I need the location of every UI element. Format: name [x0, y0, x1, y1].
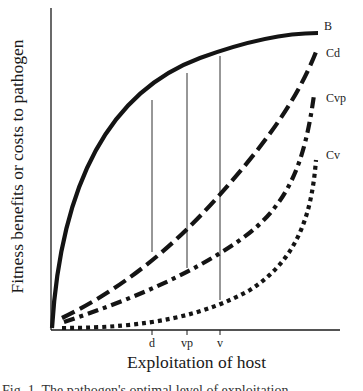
curve-b — [52, 33, 318, 328]
x-ticks — [152, 330, 220, 335]
axes — [51, 8, 340, 330]
tick-label-vp: vp — [181, 336, 193, 351]
curve-cd — [62, 52, 316, 318]
curve-label-cvp: Cvp — [326, 91, 346, 106]
drop-lines — [152, 56, 220, 300]
tick-label-v: v — [217, 336, 223, 351]
x-axis-label: Exploitation of host — [0, 352, 363, 373]
cut-off-caption: Fig. 1. The pathogen's optimal level of … — [2, 383, 289, 391]
curve-label-b: B — [324, 19, 332, 34]
curves — [52, 33, 318, 328]
curve-label-cv: Cv — [326, 148, 340, 163]
curve-label-cd: Cd — [326, 46, 340, 61]
figure-canvas — [0, 0, 363, 391]
curve-cvp — [64, 95, 314, 322]
y-axis-label: Fitness benefits or costs to pathogen — [4, 6, 30, 326]
y-axis-label-text: Fitness benefits or costs to pathogen — [7, 39, 28, 293]
curve-cv — [62, 160, 316, 328]
tick-label-d: d — [149, 336, 155, 351]
